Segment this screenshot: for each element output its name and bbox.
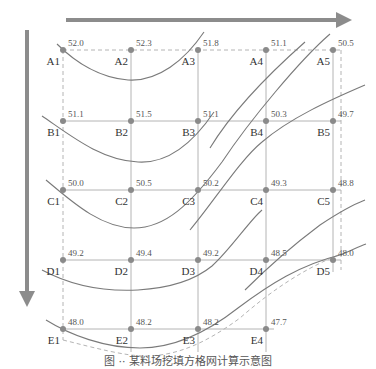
point-label: A3 [182,55,196,67]
elevation-value: 52.3 [136,38,152,48]
point-label: E3 [183,334,196,346]
arrow-down-icon [19,291,35,307]
elevation-value: 50.5 [136,178,152,188]
grid-point-dot [263,187,269,193]
boundary-layer [63,50,341,356]
elevation-value: 48.5 [271,248,287,258]
elevation-value: 49.2 [68,248,84,258]
elevation-value: 47.7 [271,317,287,327]
grid-point-c1: 50.0C1 [47,178,84,207]
grid-point-dot [60,187,66,193]
figure-caption: 图 ·· 某料场挖填方格网计算示意图 [0,355,376,369]
grid-point-b2: 51.5B2 [115,109,152,138]
grid-point-e1: 48.0E1 [48,317,84,346]
elevation-value: 52.0 [68,38,84,48]
elevation-value: 49.2 [203,248,219,258]
contour-b5 [190,85,365,230]
grid-point-b4: 50.3B4 [250,109,287,138]
point-label: C2 [115,195,128,207]
grid-point-a2: 52.3A2 [115,38,153,67]
grid-point-dot [330,257,336,263]
point-label: D5 [317,265,331,277]
grid-lines-layer [63,50,341,352]
grid-point-dot [195,257,201,263]
grid-point-a4: 51.1A4 [250,38,287,67]
point-label: A2 [115,55,128,67]
grid-point-e4: 47.7E4 [251,317,287,346]
grid-point-dot [60,118,66,124]
elevation-value: 50.2 [203,178,219,188]
point-label: C1 [47,195,60,207]
grid-point-d4: 48.5D4 [250,248,288,277]
grid-point-dot [128,257,134,263]
grid-point-dot [128,118,134,124]
point-label: C3 [182,195,195,207]
elevation-value: 50.5 [338,38,354,48]
grid-point-dot [60,257,66,263]
grid-point-d3: 49.2D3 [182,248,219,277]
grid-point-dot [195,47,201,53]
grid-point-d1: 49.2D1 [47,248,84,277]
point-label: A4 [250,55,264,67]
grid-point-a5: 50.5A5 [317,38,355,67]
elevation-value: 51.1 [68,109,84,119]
contour-c5 [245,200,365,290]
point-label: A5 [317,55,331,67]
point-label: B2 [115,126,128,138]
grid-point-dot [128,187,134,193]
grid-point-dot [330,187,336,193]
grid-point-dot [195,187,201,193]
elevation-value: 51.5 [136,109,152,119]
grid-point-dot [263,326,269,332]
elevation-value: 49.4 [136,248,152,258]
point-label: D3 [182,265,196,277]
elevation-value: 48.2 [136,317,152,327]
grid-point-dot [60,47,66,53]
grid-point-c4: 49.3C4 [250,178,287,207]
point-label: C4 [250,195,263,207]
elevation-value: 51.8 [203,38,219,48]
grid-point-dot [330,47,336,53]
point-label: E2 [116,334,128,346]
elevation-value: 49.7 [338,109,354,119]
grid-point-dot [128,326,134,332]
elevation-value: 48.0 [338,248,354,258]
elevation-value: 50.3 [271,109,287,119]
point-label: B5 [317,126,330,138]
point-label: D1 [47,265,60,277]
grid-point-c2: 50.5C2 [115,178,152,207]
point-label: E1 [48,334,60,346]
elevation-value: 49.3 [271,178,287,188]
elevation-value: 48.0 [68,317,84,327]
point-label: B3 [182,126,195,138]
arrow-right-icon [336,12,352,28]
grid-point-dot [195,326,201,332]
elevation-value: 48.8 [338,178,354,188]
grid-point-b5: 49.7B5 [317,109,354,138]
grid-point-c5: 48.8C5 [317,178,354,207]
point-label: D2 [115,265,128,277]
point-label: A1 [47,55,60,67]
grid-point-dot [263,257,269,263]
elevation-value: 51.1 [203,109,219,119]
grid-point-e3: 48.2E3 [183,317,219,346]
grid-point-e2: 48.2E2 [116,317,152,346]
elevation-value: 48.2 [203,317,219,327]
point-label: B4 [250,126,263,138]
point-label: E4 [251,334,264,346]
grid-point-dot [60,326,66,332]
grid-point-dot [195,118,201,124]
elevation-value: 50.0 [68,178,84,188]
grid-point-c3: 50.2C3 [182,178,219,207]
elevation-value: 51.1 [271,38,287,48]
point-label: B1 [47,126,60,138]
grid-point-d2: 49.4D2 [115,248,153,277]
grid-point-dot [263,47,269,53]
grid-point-b3: 51.1B3 [182,109,219,138]
point-label: D4 [250,265,264,277]
point-label: C5 [317,195,330,207]
grid-point-dot [263,118,269,124]
grid-point-dot [128,47,134,53]
grid-point-dot [330,118,336,124]
